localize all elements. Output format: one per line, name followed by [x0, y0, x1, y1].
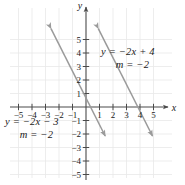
- x-axis-label: x: [171, 102, 177, 113]
- x-tick-label: 1: [97, 110, 102, 120]
- y-tick-label: −1: [71, 116, 81, 126]
- coordinate-graph: −5 −4 −3 −2 −1 1 2 3 4 5 5 4 3 2 1 −1 −2…: [0, 0, 185, 185]
- y-tick-label: 1: [77, 89, 82, 99]
- y-tick-label: 3: [77, 62, 82, 72]
- plot-area: −5 −4 −3 −2 −1 1 2 3 4 5 5 4 3 2 1 −1 −2…: [0, 0, 185, 185]
- equation-text-line-1: y = −2x + 4: [101, 46, 155, 59]
- y-tick-label: 5: [77, 35, 82, 45]
- equation-label-line-2: y = −2x − 3 m = −2: [5, 116, 59, 141]
- x-tick-label: 5: [151, 110, 156, 120]
- y-axis-label: y: [77, 0, 83, 11]
- x-tick-label: 2: [111, 110, 116, 120]
- y-tick-label: 4: [77, 48, 82, 58]
- y-tick-label: −3: [71, 143, 81, 153]
- slope-text-line-1: m = −2: [101, 59, 155, 72]
- chart-background: [0, 0, 185, 185]
- x-tick-label: 4: [138, 110, 143, 120]
- y-tick-label: −4: [71, 156, 81, 166]
- y-tick-label: 2: [77, 75, 82, 85]
- equation-label-line-1: y = −2x + 4 m = −2: [101, 46, 155, 71]
- equation-text-line-2: y = −2x − 3: [5, 116, 59, 129]
- slope-text-line-2: m = −2: [5, 129, 59, 142]
- y-tick-label: −2: [71, 129, 81, 139]
- y-tick-label: −5: [71, 170, 81, 180]
- x-tick-label: 3: [124, 110, 129, 120]
